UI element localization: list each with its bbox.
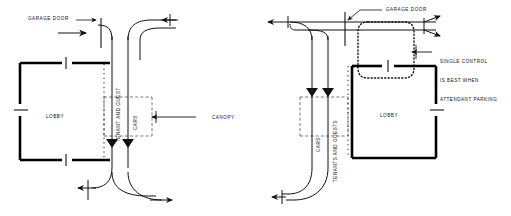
note-line-2: IS BEST WHEN — [440, 78, 497, 84]
right-canopy-dashed-zone — [300, 97, 348, 136]
note-line-3: ATTENDANT PARKING — [440, 97, 497, 103]
left-top-exit-arrow — [162, 14, 178, 26]
right-garage-door-leader — [348, 10, 382, 20]
left-tenant-and-guest-label: TENANT AND GUEST — [116, 87, 122, 142]
left-lobby-door-marks — [14, 57, 66, 166]
left-canopy-leader-arrow — [152, 111, 196, 123]
left-canopy-label: CANOPY — [212, 115, 235, 121]
diagram-canvas: GARAGE DOOR LOBBY TENANT AND GUEST CARS … — [0, 0, 511, 216]
right-lane-direction-chevrons — [306, 88, 334, 97]
right-cars-label: CARS — [316, 137, 322, 152]
note-line-1: SINGLE CONTROL — [440, 59, 497, 65]
left-lower-exit-arrowheads — [78, 180, 172, 200]
right-top-right-double-arrow — [424, 16, 440, 36]
right-tenants-and-guests-label: TENANTS AND GUESTS — [333, 120, 339, 182]
right-single-control-note: SINGLE CONTROL IS BEST WHEN ATTENDANT PA… — [440, 46, 497, 116]
left-cars-label: CARS — [133, 115, 139, 130]
right-lower-exit-arrow — [272, 190, 286, 204]
left-garage-door-label: GARAGE DOOR — [28, 16, 69, 22]
diagram-vector-layer — [0, 0, 511, 216]
right-lobby-label: LOBBY — [380, 113, 398, 119]
right-lower-flow-curves — [282, 168, 328, 200]
left-lobby-label: LOBBY — [46, 114, 64, 120]
left-lobby-walls — [20, 63, 110, 160]
left-lower-flow-curves — [92, 168, 162, 200]
right-garage-door-label: GARAGE DOOR — [386, 7, 427, 13]
right-note-leader-arrow — [412, 45, 432, 59]
right-lobby-walls — [352, 66, 436, 158]
right-upper-flow-curves — [282, 22, 436, 40]
left-upper-flow-curves — [98, 20, 176, 60]
